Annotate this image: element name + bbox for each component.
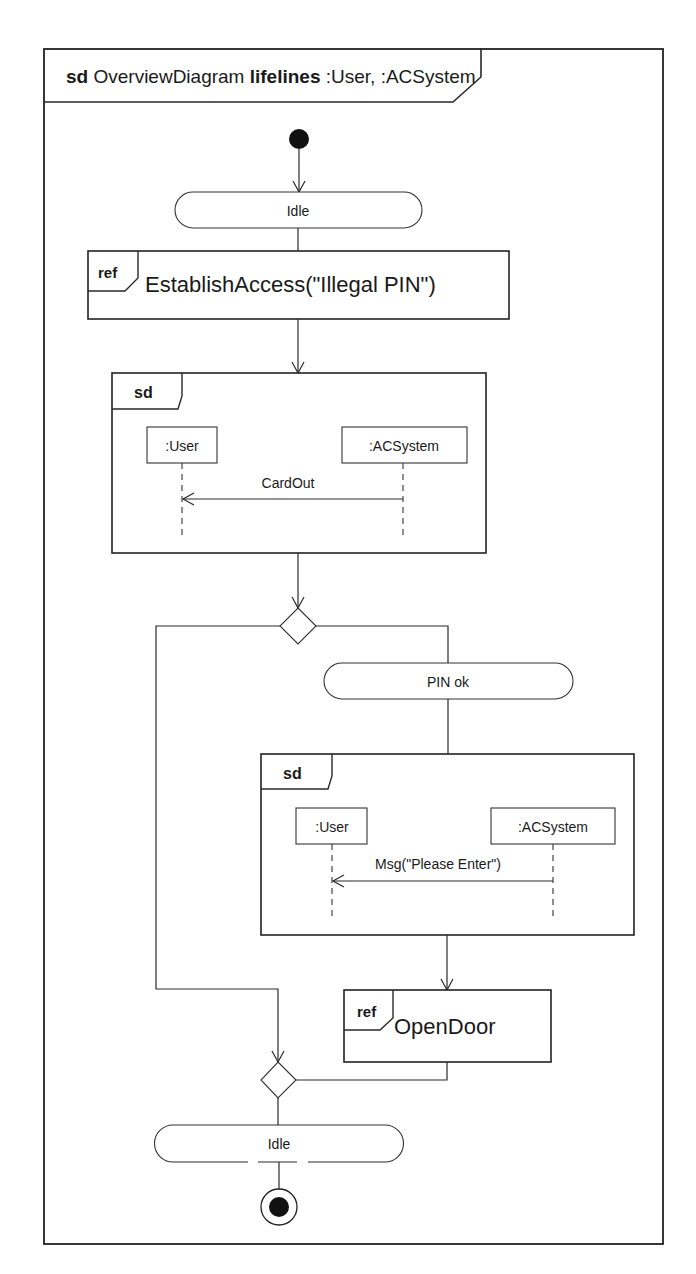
ref-open-door[interactable]: ref OpenDoor	[344, 990, 551, 1062]
ref-establish-label: EstablishAccess("Illegal PIN")	[145, 272, 436, 297]
sd1-tag: sd	[134, 384, 153, 401]
state-pin-ok[interactable]: PIN ok	[324, 663, 573, 699]
frame-lifelines-keyword: lifelines	[250, 66, 326, 87]
sd2-acsystem-label: :ACSystem	[518, 819, 588, 835]
state-idle-bottom-label: Idle	[268, 1136, 291, 1152]
flow-decision-right-branch	[316, 626, 448, 663]
state-pin-ok-label: PIN ok	[427, 674, 470, 690]
final-node-icon	[261, 1189, 297, 1225]
ref-establish-access[interactable]: ref EstablishAccess("Illegal PIN")	[88, 251, 509, 319]
frame-title: sd OverviewDiagram lifelines :User, :ACS…	[66, 66, 476, 87]
sd1-user-label: :User	[165, 438, 199, 454]
ref-open-door-tag: ref	[357, 1003, 377, 1020]
sd2-user-label: :User	[315, 819, 349, 835]
frame-name: OverviewDiagram	[93, 66, 249, 87]
sd2-tag: sd	[283, 765, 302, 782]
interaction-overview-diagram: sd OverviewDiagram lifelines :User, :ACS…	[0, 0, 696, 1274]
ref-open-door-label: OpenDoor	[394, 1014, 496, 1039]
merge-node-icon	[261, 1062, 296, 1098]
initial-node-icon	[289, 129, 309, 149]
state-idle-top-label: Idle	[287, 203, 310, 219]
decision-node-icon	[280, 608, 316, 644]
sd-please-enter-fragment[interactable]: sd :User :ACSystem Msg("Please Enter")	[261, 754, 634, 935]
flow-ref-to-merge	[296, 1062, 447, 1080]
sd2-message-label: Msg("Please Enter")	[375, 856, 501, 872]
ref-establish-tag: ref	[98, 264, 118, 281]
state-idle-bottom[interactable]: Idle	[155, 1125, 404, 1162]
state-idle-top[interactable]: Idle	[175, 192, 422, 228]
sd1-acsystem-label: :ACSystem	[369, 438, 439, 454]
frame-lifelines: :User, :ACSystem	[326, 66, 476, 87]
sd1-message-label: CardOut	[262, 475, 315, 491]
sd-cardout-fragment[interactable]: sd :User :ACSystem CardOut	[112, 373, 486, 553]
frame-keyword: sd	[66, 66, 93, 87]
